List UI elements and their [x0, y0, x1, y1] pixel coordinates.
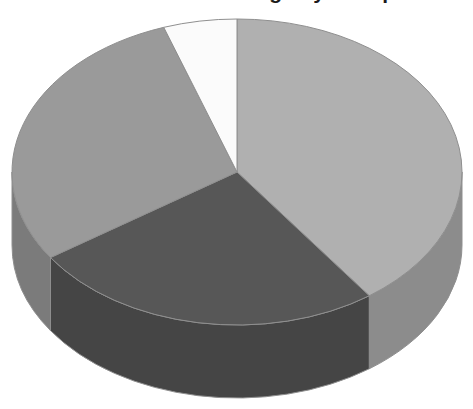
chart-figure: Distribution of Usage by Group — [0, 0, 473, 409]
pie-chart-svg — [0, 0, 473, 409]
pie-top-slices — [12, 19, 462, 325]
